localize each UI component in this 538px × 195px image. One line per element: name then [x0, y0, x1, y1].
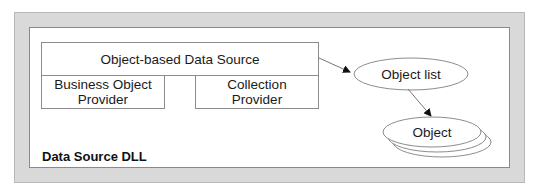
diagram-connectors: Object list Object [0, 0, 538, 195]
object-label: Object [412, 125, 451, 140]
object-node-stack: Object [383, 117, 491, 157]
object-list-node: Object list [354, 58, 468, 90]
arrow-objectlist-to-object [408, 89, 431, 116]
arrow-datasource-to-objectlist [319, 58, 350, 72]
object-list-label: Object list [381, 67, 441, 82]
